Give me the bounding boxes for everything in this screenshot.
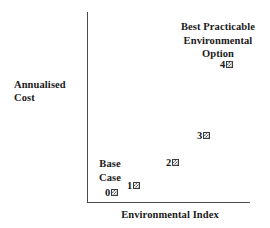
data-point-marker-icon — [133, 182, 140, 189]
data-point-1: 1 — [127, 180, 140, 191]
data-point-4: 4 — [220, 59, 233, 70]
annotation-base-case: Base Case — [89, 157, 131, 184]
data-point-marker-icon — [226, 61, 233, 68]
x-axis-line — [87, 202, 250, 203]
data-point-label: 0 — [105, 187, 110, 198]
data-point-label: 2 — [166, 157, 171, 168]
data-point-2: 2 — [166, 157, 179, 168]
data-point-label: 1 — [127, 180, 132, 191]
y-axis-line — [87, 12, 88, 203]
data-point-marker-icon — [172, 159, 179, 166]
data-point-3: 3 — [197, 130, 210, 141]
annotation-best-practicable-environmental-option: Best Practicable Environmental Option — [168, 20, 268, 61]
data-point-0: 0 — [105, 187, 118, 198]
y-axis-title: Annualised Cost — [14, 79, 84, 105]
x-axis-title: Environmental Index — [90, 209, 250, 222]
data-point-label: 3 — [197, 130, 202, 141]
data-point-label: 4 — [220, 59, 225, 70]
chart-figure: Annualised Cost Environmental Index Best… — [0, 0, 270, 228]
data-point-marker-icon — [203, 132, 210, 139]
data-point-marker-icon — [111, 189, 118, 196]
